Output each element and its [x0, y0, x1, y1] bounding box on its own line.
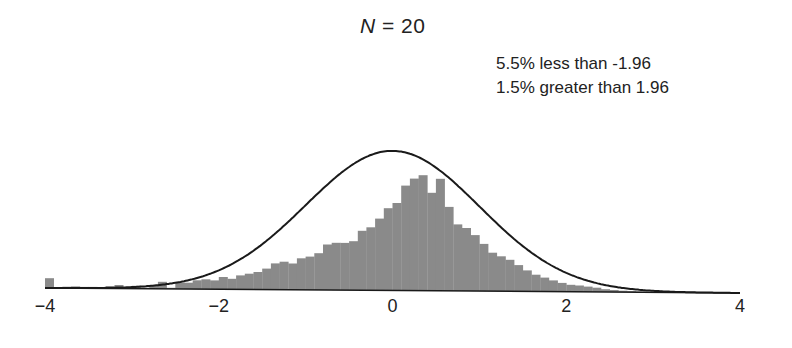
histogram-bar [401, 186, 410, 291]
histogram-bar [558, 283, 567, 292]
histogram-bar [488, 253, 497, 292]
histogram-bar [271, 263, 280, 289]
histogram-bar [532, 275, 541, 292]
x-tick-label: 4 [735, 296, 745, 317]
histogram-bar [236, 275, 245, 289]
histogram-bar [306, 257, 315, 290]
histogram-bar [471, 235, 480, 291]
histogram-bar [358, 231, 367, 290]
histogram-bar [427, 193, 436, 291]
histogram-bar [280, 262, 289, 290]
histogram-bar [254, 272, 263, 290]
histogram-bar [45, 278, 54, 288]
histogram-bar [462, 228, 471, 291]
histogram-bar [566, 285, 575, 292]
histogram-bar [436, 179, 445, 291]
histogram-bar [549, 280, 558, 291]
histogram-bar [201, 279, 210, 289]
histogram-bar [505, 260, 514, 292]
histogram-bar [210, 280, 219, 289]
x-tick-label: −4 [35, 296, 56, 317]
histogram-bar [584, 287, 593, 292]
histogram-bar [227, 279, 236, 290]
histogram-bar [375, 219, 384, 291]
histogram-bars [45, 175, 653, 292]
histogram-bar [514, 265, 523, 291]
histogram-bar [184, 283, 193, 289]
histogram-bar [349, 241, 358, 290]
histogram-bar [410, 179, 419, 291]
x-tick-label: 0 [387, 296, 397, 317]
histogram-bar [262, 269, 271, 290]
histogram-bar [393, 203, 402, 291]
histogram-bar [453, 224, 462, 291]
histogram-bar [288, 264, 297, 290]
histogram-bar [297, 258, 306, 290]
histogram-bar [540, 278, 549, 292]
histogram-bar [575, 286, 584, 292]
histogram-bar [332, 243, 341, 290]
histogram-bar [523, 270, 532, 291]
histogram-bar [193, 280, 202, 289]
histogram-bar [245, 274, 254, 290]
histogram-bar [445, 207, 454, 291]
histogram-bar [219, 277, 228, 289]
x-tick-label: −2 [208, 296, 229, 317]
histogram-bar [323, 245, 332, 291]
histogram-bar [419, 175, 428, 291]
histogram-bar [384, 208, 393, 290]
histogram-bar [497, 256, 506, 291]
x-tick-label: 2 [561, 296, 571, 317]
histogram-bar [340, 243, 349, 290]
histogram-bar [314, 253, 323, 290]
histogram-bar [479, 244, 488, 291]
histogram-bar [366, 227, 375, 290]
